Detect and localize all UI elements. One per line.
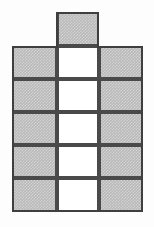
grid-cell [12,79,57,112]
grid-cell [99,46,143,79]
figure-canvas [0,0,154,227]
grid-cell [12,46,57,79]
grid-cell-tab [57,12,99,46]
grid-cell [12,112,57,145]
grid-cell [99,145,143,178]
grid-cell [57,145,99,178]
grid-cell [12,178,57,212]
grid-cell [99,79,143,112]
grid-cell [12,145,57,178]
grid-cell [57,112,99,145]
grid-cell [57,178,99,212]
grid-cell [99,178,143,212]
grid-cell [99,112,143,145]
grid-cell [57,46,99,79]
grid-cell [57,79,99,112]
